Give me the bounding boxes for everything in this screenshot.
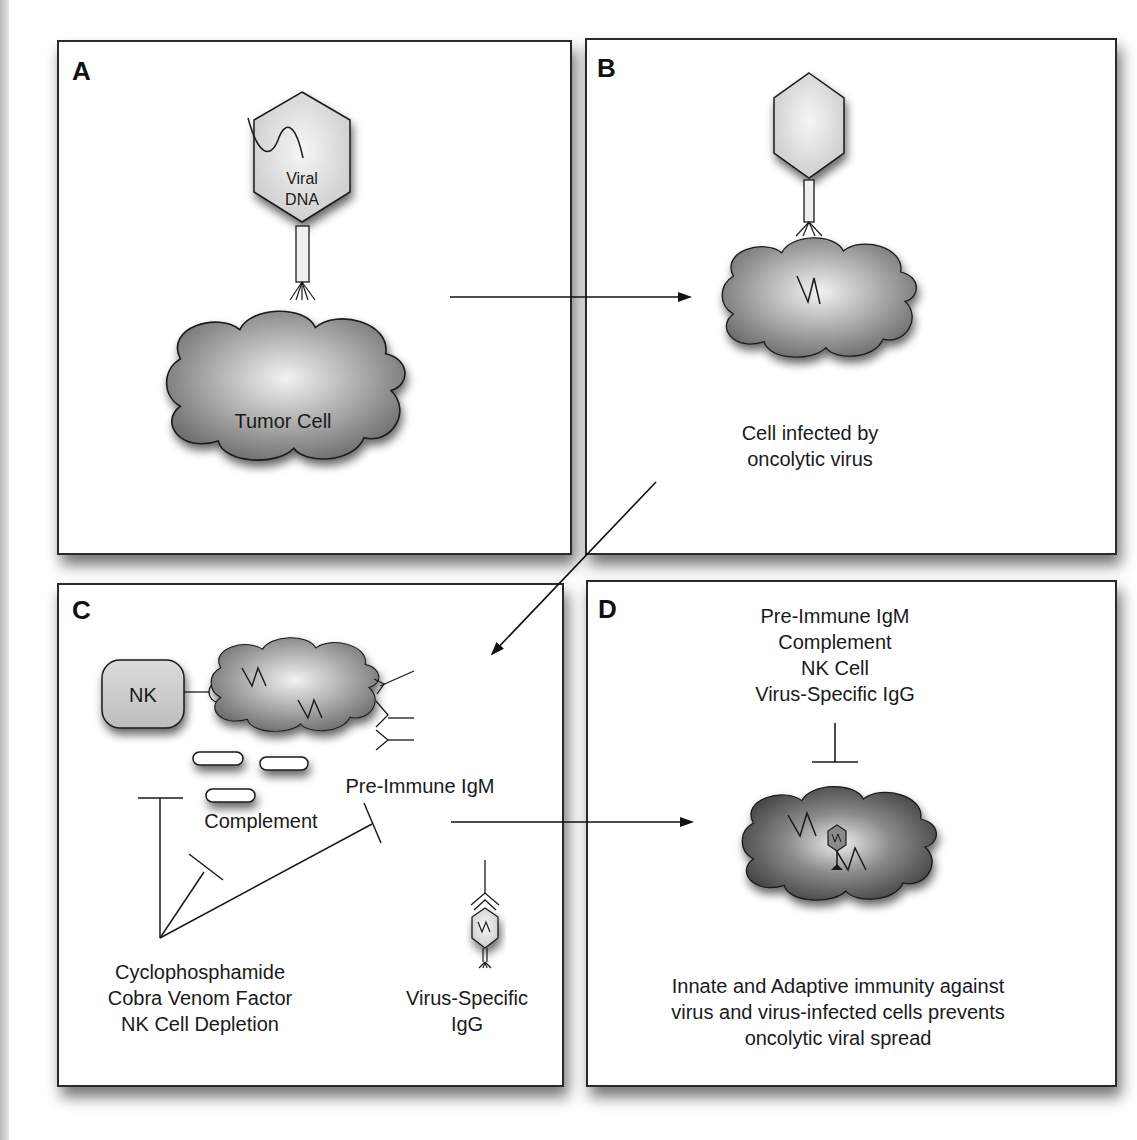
panel-b-letter: B	[597, 53, 616, 84]
panel-a-letter: A	[72, 56, 91, 87]
factor-item: Complement	[715, 629, 955, 655]
factor-item: Pre-Immune IgM	[715, 603, 955, 629]
tumor-cell-label: Tumor Cell	[203, 408, 363, 434]
treatment-item: NK Cell Depletion	[100, 1011, 300, 1037]
caption-line: Innate and Adaptive immunity against	[618, 973, 1058, 999]
infected-cell-caption: Cell infected by oncolytic virus	[700, 420, 920, 472]
panel-c-letter: C	[72, 595, 91, 626]
caption-line: Cell infected by	[700, 420, 920, 446]
pre-immune-igm-label: Pre-Immune IgM	[330, 773, 510, 799]
caption-line: oncolytic virus	[700, 446, 920, 472]
panel-a-tumor-cell	[167, 311, 405, 460]
treatment-item: Cyclophosphamide	[100, 959, 300, 985]
viral-label: Viral	[262, 168, 342, 189]
igg-line: IgG	[382, 1011, 552, 1037]
immune-factors-list: Pre-Immune IgM Complement NK Cell Virus-…	[715, 603, 955, 707]
treatments-label: Cyclophosphamide Cobra Venom Factor NK C…	[100, 959, 300, 1037]
caption-line: oncolytic viral spread	[618, 1025, 1058, 1051]
igg-line: Virus-Specific	[382, 985, 552, 1011]
panel-d-letter: D	[598, 594, 617, 625]
treatment-item: Cobra Venom Factor	[100, 985, 300, 1011]
factor-item: Virus-Specific IgG	[715, 681, 955, 707]
immunity-caption: Innate and Adaptive immunity against vir…	[618, 973, 1058, 1051]
nk-label: NK	[113, 682, 173, 708]
caption-line: virus and virus-infected cells prevents	[618, 999, 1058, 1025]
dna-label: DNA	[262, 189, 342, 210]
virus-specific-igg-label: Virus-Specific IgG	[382, 985, 552, 1037]
viral-dna-label: Viral DNA	[262, 168, 342, 210]
factor-item: NK Cell	[715, 655, 955, 681]
complement-label: Complement	[196, 808, 326, 834]
